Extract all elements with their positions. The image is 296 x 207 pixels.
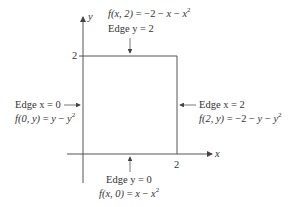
bottom-edge-label: Edge y = 0 bbox=[106, 174, 152, 186]
top-edge-function: f(x, 2) = −2 − x − x2 bbox=[108, 8, 191, 20]
y-tick-label: 2 bbox=[72, 50, 77, 62]
top-edge-label: Edge y = 2 bbox=[108, 23, 154, 35]
bottom-edge-function: f(x, 0) = x − x2 bbox=[99, 188, 159, 200]
x-tick-label: 2 bbox=[174, 159, 179, 171]
right-edge-label: Edge x = 2 bbox=[199, 99, 245, 111]
left-edge-label: Edge x = 0 bbox=[15, 99, 61, 111]
top-func-lhs: f(x, 2) bbox=[108, 8, 133, 19]
right-edge-function: f(2, y) = −2 − y − y2 bbox=[199, 113, 282, 125]
y-axis-label: y bbox=[88, 11, 93, 23]
left-edge-function: f(0, y) = y − y2 bbox=[15, 113, 75, 125]
square-top-right-edges bbox=[83, 56, 177, 154]
x-axis-label: x bbox=[215, 148, 220, 160]
